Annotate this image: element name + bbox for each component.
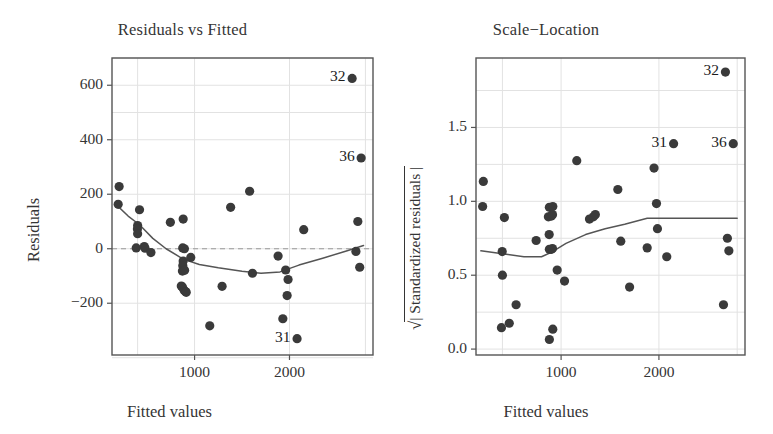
residuals-vs-fitted-outlier-label: 36: [339, 147, 355, 165]
diagnostic-plots-figure: Residuals vs Fitted Fitted values Residu…: [0, 0, 773, 434]
panel-scale-location: Scale−Location Fitted values 0.00.51.01.…: [395, 0, 773, 434]
scale-location-outlier-label: 31: [652, 133, 668, 151]
residuals-vs-fitted-outlier-label: 31: [275, 328, 291, 346]
y-axis-title-right: √| Standardized residuals |: [404, 166, 426, 330]
residuals-vs-fitted-outlier-label: 32: [330, 67, 346, 85]
residuals-vs-fitted-y-tick-label: 200: [80, 184, 103, 202]
residuals-vs-fitted-x-tick-label: 1000: [155, 363, 235, 381]
scale-location-x-tick-label: 2000: [619, 363, 699, 381]
panel-residuals-vs-fitted: Residuals vs Fitted Fitted values Residu…: [0, 0, 395, 434]
radical-sign: √: [406, 321, 425, 330]
scale-location-y-tick-label: 1.0: [448, 191, 467, 209]
residuals-vs-fitted-y-tick-label: 0: [95, 239, 103, 257]
scale-location-x-tick-label: 1000: [521, 363, 601, 381]
y-axis-title-right-text: | Standardized residuals |: [404, 166, 424, 322]
scale-location-y-tick-label: 0.5: [448, 265, 467, 283]
residuals-vs-fitted-y-tick-label: 600: [80, 75, 103, 93]
residuals-vs-fitted-y-tick-label: 400: [80, 130, 103, 148]
y-axis-title-left: Residuals: [24, 198, 44, 262]
scale-location-y-tick-label: 0.0: [448, 339, 467, 357]
x-axis-title-left: Fitted values: [0, 402, 367, 422]
scale-location-y-tick-label: 1.5: [448, 117, 467, 135]
residuals-vs-fitted-y-tick-label: −200: [71, 293, 103, 311]
x-axis-title-right: Fitted values: [357, 402, 735, 422]
scale-location-outlier-label: 36: [711, 133, 727, 151]
scale-location-outlier-label: 32: [703, 61, 719, 79]
residuals-vs-fitted-x-tick-label: 2000: [249, 363, 329, 381]
